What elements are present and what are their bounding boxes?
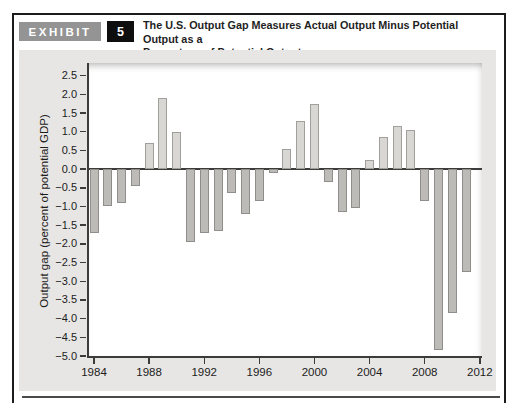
bar-2009 [434,169,443,350]
x-tick-label: 1992 [184,366,224,378]
y-tick-mark [80,187,86,188]
x-tick-mark [204,358,205,364]
bar-2011 [462,169,471,272]
y-tick-mark [80,224,86,225]
y-tick-mark [80,131,86,132]
frame-top-line [12,13,506,15]
bar-1999 [296,121,305,170]
y-tick-mark [80,299,86,300]
bar-1988 [145,143,154,169]
y-tick-mark [80,318,86,319]
exhibit-number-badge: 5 [107,21,134,42]
bar-1986 [117,169,126,203]
y-tick-label: −4.0 [37,312,77,324]
bar-2004 [365,160,374,169]
exhibit-label: EXHIBIT [29,26,92,38]
x-tick-mark [259,358,260,364]
x-tick-mark [424,358,425,364]
bar-1995 [241,169,250,214]
bar-1984 [90,169,99,233]
x-tick-mark [479,358,480,364]
bar-2005 [379,137,388,169]
y-tick-label: −0.5 [37,181,77,193]
x-tick-mark [148,358,149,364]
x-tick-label: 2004 [350,366,390,378]
y-tick-label: −1.0 [37,200,77,212]
y-tick-label: 1.5 [37,107,77,119]
x-tick-mark [314,358,315,364]
y-tick-label: −3.0 [37,275,77,287]
y-tick-mark [80,262,86,263]
y-tick-label: 2.0 [37,88,77,100]
y-tick-mark [80,206,86,207]
plot-area [87,63,482,358]
x-tick-label: 2008 [405,366,445,378]
x-tick-mark [369,358,370,364]
bar-2000 [310,104,319,169]
y-tick-label: −2.5 [37,256,77,268]
y-tick-mark [80,112,86,113]
frame-right-line [504,13,506,403]
x-tick-label: 1984 [74,366,114,378]
x-tick-label: 2012 [460,366,500,378]
frame-left-line [12,13,14,403]
exhibit-title-line1: The U.S. Output Gap Measures Actual Outp… [143,19,488,46]
bar-2010 [448,169,457,313]
y-tick-label: 0.0 [37,163,77,175]
x-tick-label: 2000 [294,366,334,378]
bar-2003 [351,169,360,208]
y-tick-label: 2.5 [37,69,77,81]
y-tick-mark [80,355,86,356]
bar-1996 [255,169,264,201]
bar-1994 [227,169,236,193]
bar-1991 [186,169,195,242]
y-tick-mark [80,168,86,169]
bar-1998 [282,149,291,170]
exhibit-number: 5 [117,25,124,39]
y-tick-mark [80,243,86,244]
y-tick-label: 1.0 [37,125,77,137]
y-tick-label: −5.0 [37,350,77,362]
bar-1997 [269,169,278,173]
bar-1989 [158,98,167,169]
bottom-rule-line [22,396,500,398]
exhibit-figure: EXHIBIT 5 The U.S. Output Gap Measures A… [0,0,517,403]
y-tick-mark [80,94,86,95]
y-tick-mark [80,75,86,76]
y-tick-label: 0.5 [37,144,77,156]
bar-1987 [131,169,140,186]
bar-2001 [324,169,333,182]
y-tick-mark [80,150,86,151]
y-tick-label: −1.5 [37,219,77,231]
bar-1985 [103,169,112,206]
bar-2007 [406,130,415,169]
bar-1993 [214,169,223,231]
y-tick-label: −3.5 [37,293,77,305]
bar-2002 [338,169,347,212]
y-tick-mark [80,337,86,338]
x-tick-mark [93,358,94,364]
bar-2006 [393,126,402,169]
bar-2008 [420,169,429,201]
y-tick-label: −4.5 [37,331,77,343]
x-tick-label: 1996 [239,366,279,378]
exhibit-label-badge: EXHIBIT [19,22,101,41]
chart-panel: Output gap (percent of potential GDP) 2.… [19,50,496,391]
y-tick-mark [80,281,86,282]
bar-1990 [172,132,181,169]
x-tick-label: 1988 [129,366,169,378]
bar-1992 [200,169,209,233]
y-tick-label: −2.0 [37,237,77,249]
